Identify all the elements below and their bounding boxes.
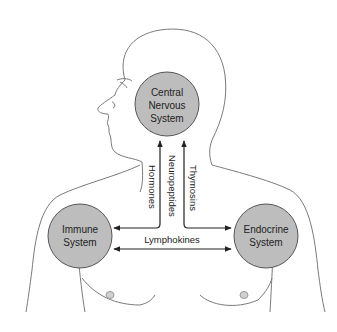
diagram-canvas: Central Nervous System Immune System End… (0, 0, 337, 332)
thymosins-label: Thymosins (188, 165, 199, 211)
endocrine-label-line2: System (249, 237, 282, 248)
right-pec (200, 278, 272, 305)
lymphokines-label: Lymphokines (144, 234, 200, 245)
neck-front (140, 162, 143, 192)
immune-label-line1: Immune (62, 224, 99, 235)
node-central-nervous-system: Central Nervous System (135, 72, 199, 136)
cns-label-line3: System (150, 113, 183, 124)
cns-label-line2: Nervous (148, 100, 185, 111)
endocrine-label-line1: Endocrine (243, 224, 288, 235)
immune-label-line2: System (63, 237, 96, 248)
neuropeptides-label: Neuropeptides (167, 155, 178, 217)
left-nipple (106, 292, 114, 299)
hormones-label: Hormones (147, 165, 158, 209)
right-nipple (240, 292, 248, 299)
ear-outline (112, 102, 115, 108)
left-pec (82, 278, 155, 305)
face-profile (98, 80, 142, 162)
node-immune-system: Immune System (48, 204, 112, 268)
node-endocrine-system: Endocrine System (234, 204, 298, 268)
cns-label-line1: Central (151, 87, 183, 98)
